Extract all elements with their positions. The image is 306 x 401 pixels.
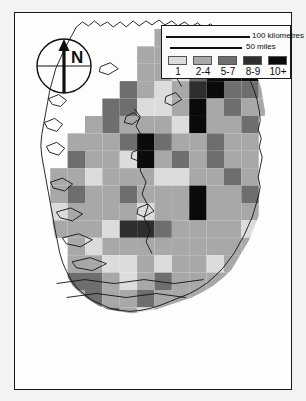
grid-cell [241,186,258,203]
grid-cell [172,342,189,359]
grid-cell [120,290,137,307]
grid-cell [172,168,189,185]
grid-cell [85,325,102,342]
grid-cell [102,325,119,342]
grid-cell [224,99,241,116]
grid-cell [154,325,171,342]
grid-cell [120,133,137,150]
grid-cell [120,168,137,185]
grid-cell [85,342,102,359]
grid-cell [154,186,171,203]
grid-cell [102,203,119,220]
grid-cell [207,220,224,237]
grid-cell [85,203,102,220]
grid-cell [154,116,171,133]
grid-cell [137,377,154,389]
grid-cell [241,133,258,150]
grid-cell [102,116,119,133]
grid-cell [154,220,171,237]
grid-cell [68,238,85,255]
grid-cell [137,273,154,290]
grid-cell [102,290,119,307]
grid-cell [102,151,119,168]
legend-label: 1 [165,66,191,77]
grid-cell [259,99,276,116]
grid-cell [154,203,171,220]
grid-cell [85,307,102,324]
legend-swatch [193,56,212,65]
grid-cell [172,238,189,255]
grid-cell [120,377,137,389]
grid-cell [207,290,224,307]
grid-cell [102,133,119,150]
grid-cell [50,168,67,185]
grid-cell [137,220,154,237]
grid-cell [68,133,85,150]
grid-cell [224,116,241,133]
grid-cell [120,220,137,237]
grid-cell [154,81,171,98]
grid-cell [102,186,119,203]
grid-cell [207,116,224,133]
grid-cell [137,64,154,81]
legend-label: 5-7 [215,66,241,77]
grid-cell [224,238,241,255]
grid-cell [137,342,154,359]
grid-cell [172,360,189,377]
grid-cell [68,255,85,272]
grid-cell [189,186,206,203]
compass-north-label: N [71,48,83,67]
grid-cell [189,133,206,150]
grid-cell [207,151,224,168]
grid-cell [189,220,206,237]
grid-cell [172,203,189,220]
grid-cell [207,168,224,185]
grid-cell [137,99,154,116]
grid-cell [189,325,206,342]
grid-cell [224,186,241,203]
grid-cell [172,133,189,150]
grid-cell [102,273,119,290]
grid-cell [241,116,258,133]
grid-cell [85,360,102,377]
grid-cell [172,116,189,133]
legend-label: 10+ [265,66,291,77]
grid-cell [68,307,85,324]
grid-cell [137,46,154,63]
grid-cell [102,238,119,255]
legend-swatch [268,56,287,65]
grid-cell [189,151,206,168]
grid-cell [207,238,224,255]
grid-cell [172,290,189,307]
scale-bar-kilometres [166,36,250,38]
grid-cell [224,133,241,150]
grid-cell [50,342,67,359]
grid-cell [172,307,189,324]
grid-cell [241,168,258,185]
compass-rose: N [33,35,95,97]
grid-cell [68,325,85,342]
grid-cell [224,168,241,185]
grid-cell [207,325,224,342]
grid-cell [224,151,241,168]
grid-cell [120,342,137,359]
grid-cell [189,99,206,116]
grid-cell [120,116,137,133]
grid-cell [189,81,206,98]
grid-cell [102,377,119,389]
grid-cell [85,116,102,133]
grid-cell [120,360,137,377]
grid-cell [172,99,189,116]
map-frame: N 100 kilometres 50 miles 12-45-78-910+ [14,12,292,390]
grid-cell [241,255,258,272]
scale-label-miles: 50 miles [246,42,276,51]
grid-cell [259,81,276,98]
grid-cell [207,133,224,150]
grid-cell [102,99,119,116]
grid-cell [68,151,85,168]
grid-cell [137,325,154,342]
grid-cell [102,360,119,377]
grid-cell [189,342,206,359]
grid-cell [172,255,189,272]
legend-label: 2-4 [190,66,216,77]
